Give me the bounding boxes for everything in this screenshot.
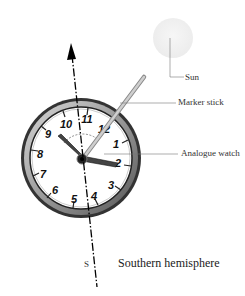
arrow-head-icon [67, 43, 76, 60]
numeral-5: 5 [71, 193, 78, 205]
marker-stick-label: Marker stick [178, 97, 224, 107]
hemisphere-title: Southern hemisphere [118, 256, 220, 271]
numeral-3: 3 [108, 179, 114, 191]
numeral-8: 8 [37, 148, 44, 160]
numeral-7: 7 [40, 168, 47, 180]
sun-label: Sun [185, 72, 199, 82]
numeral-1: 1 [113, 138, 119, 150]
sun-icon [153, 18, 193, 58]
numeral-6: 6 [52, 184, 59, 196]
numeral-10: 10 [60, 118, 73, 130]
south-label: S [84, 259, 89, 269]
numeral-9: 9 [45, 128, 52, 140]
numeral-4: 4 [90, 190, 97, 202]
numeral-11: 11 [81, 113, 92, 125]
analogue-watch-label: Analogue watch [181, 148, 240, 158]
